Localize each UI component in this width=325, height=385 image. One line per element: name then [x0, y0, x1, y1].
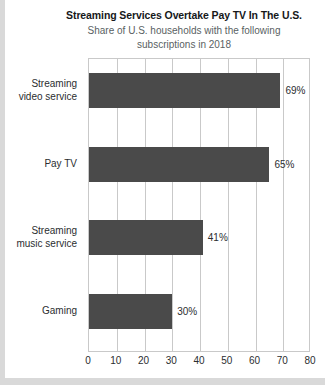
category-label-line: Streaming	[0, 77, 77, 90]
category-label-line: music service	[0, 237, 77, 250]
bar-value-label: 30%	[172, 294, 197, 329]
chart-subtitle-line-2: subscriptions in 2018	[43, 38, 325, 52]
category-label: Gaming	[0, 304, 77, 317]
bar-band: 65%	[89, 133, 309, 207]
x-axis-tick-label: 10	[104, 355, 128, 366]
chart-subtitle-line-1: Share of U.S. households with the follow…	[43, 24, 325, 38]
page-background: Streaming Services Overtake Pay TV In Th…	[0, 0, 325, 385]
page-bottom-edge	[0, 378, 325, 385]
chart-title: Streaming Services Overtake Pay TV In Th…	[5, 8, 325, 22]
category-label: Pay TV	[0, 157, 77, 170]
bar-band: 41%	[89, 206, 309, 280]
category-label: Streamingmusic service	[0, 224, 77, 250]
bar[interactable]	[89, 147, 269, 182]
category-label: Streamingvideo service	[0, 77, 77, 103]
x-axis-tick-label: 0	[76, 355, 100, 366]
category-label-line: Gaming	[0, 304, 77, 317]
chart-card: Streaming Services Overtake Pay TV In Th…	[5, 0, 325, 378]
bar-value-label: 65%	[269, 147, 294, 182]
x-axis-tick-label: 60	[243, 355, 267, 366]
x-axis-tick-label: 20	[132, 355, 156, 366]
chart-subtitle: Share of U.S. households with the follow…	[5, 24, 325, 51]
x-axis-tick-label: 30	[159, 355, 183, 366]
x-axis-tick-label: 40	[187, 355, 211, 366]
category-label-line: Pay TV	[0, 157, 77, 170]
x-axis-tick-label: 70	[270, 355, 294, 366]
bar-value-label: 41%	[203, 220, 228, 255]
bar-value-label: 69%	[280, 73, 305, 108]
x-axis-tick-label: 50	[215, 355, 239, 366]
bar[interactable]	[89, 73, 280, 108]
category-label-line: Streaming	[0, 224, 77, 237]
bar[interactable]	[89, 220, 203, 255]
category-label-line: video service	[0, 90, 77, 103]
bar-band: 69%	[89, 59, 309, 133]
x-axis-tick-label: 80	[298, 355, 322, 366]
bar-band: 30%	[89, 280, 309, 354]
bar[interactable]	[89, 294, 172, 329]
plot-area: 69%65%41%30%	[88, 58, 310, 352]
chart-header: Streaming Services Overtake Pay TV In Th…	[5, 8, 325, 51]
